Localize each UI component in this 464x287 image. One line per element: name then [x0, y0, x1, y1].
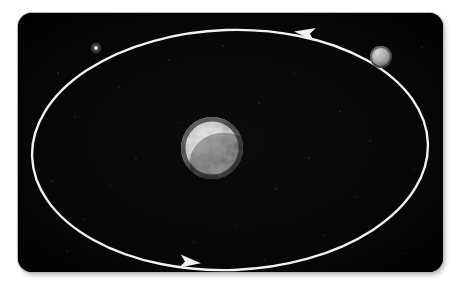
faint-star [357, 197, 358, 198]
faint-star [294, 73, 295, 74]
faint-star [406, 253, 407, 254]
faint-star [110, 185, 111, 186]
faint-star [135, 158, 136, 159]
faint-star [57, 72, 58, 73]
faint-star [414, 169, 415, 170]
faint-star [74, 116, 75, 117]
faint-star [168, 59, 169, 60]
faint-star [51, 180, 52, 181]
faint-star [66, 250, 67, 251]
bright-star [94, 46, 98, 50]
faint-star [222, 45, 223, 46]
faint-star [119, 87, 120, 88]
faint-star [237, 226, 238, 227]
faint-star [339, 110, 340, 111]
faint-star [194, 242, 195, 243]
faint-star [258, 102, 259, 103]
faint-star [308, 157, 309, 158]
space-scene-canvas [18, 13, 443, 272]
faint-star [275, 188, 276, 189]
faint-star [324, 235, 325, 236]
orbit-diagram: Moon orbiting the Earth Earth Moon count… [0, 0, 464, 287]
faint-star [84, 219, 85, 220]
faint-star [421, 46, 422, 47]
space-scene-frame [18, 13, 443, 272]
faint-star [152, 232, 153, 233]
faint-star [369, 140, 370, 141]
faint-star [264, 259, 265, 260]
faint-star [178, 123, 179, 124]
